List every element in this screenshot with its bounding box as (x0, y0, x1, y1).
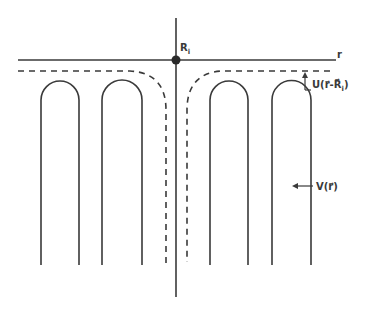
left-inner-well (102, 80, 142, 265)
u-arrow-head-icon (302, 72, 308, 78)
origin-dot (172, 56, 181, 65)
origin-label: Ri (180, 42, 190, 56)
left-outer-well (41, 81, 79, 265)
right-dashed-potential (187, 71, 330, 262)
u-potential-label: U(r⃗-R⃗i) (312, 78, 348, 93)
potential-diagram: r Ri U(r⃗-R⃗i) V(r⃗) (0, 0, 373, 311)
right-inner-well (210, 81, 248, 265)
v-potential-label: V(r⃗) (316, 181, 338, 192)
v-arrow-head-icon (292, 183, 298, 189)
r-axis-label: r (337, 49, 342, 60)
right-outer-well (272, 81, 311, 266)
